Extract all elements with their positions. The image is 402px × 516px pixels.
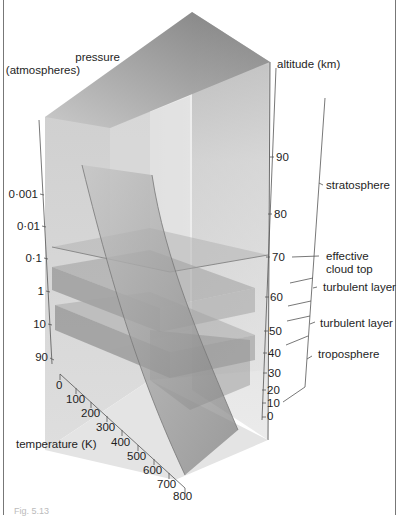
altitude-tick-label: 50 bbox=[269, 325, 282, 338]
layer-label-turbulent-upper: turbulent layer bbox=[323, 281, 396, 294]
figure-caption: Fig. 5.13 bbox=[14, 506, 49, 516]
altitude-tick-label: 70 bbox=[272, 251, 285, 264]
temperature-tick-label: 100 bbox=[66, 393, 85, 406]
pressure-tick-label: 0·1 bbox=[0, 252, 42, 265]
pressure-tick-label: 0·01 bbox=[0, 220, 40, 233]
pressure-tick-label: 0·001 bbox=[0, 188, 38, 201]
pressure-axis-units: (atmospheres) bbox=[0, 64, 80, 77]
pressure-tick-label: 90 bbox=[0, 351, 48, 364]
pressure-tick-label: 10 bbox=[0, 318, 46, 331]
temperature-tick-label: 200 bbox=[81, 407, 100, 420]
altitude-tick-label: 90 bbox=[276, 151, 289, 164]
temperature-tick-label: 0 bbox=[56, 379, 62, 392]
altitude-tick-label: 20 bbox=[267, 384, 280, 397]
altitude-tick-label: 40 bbox=[268, 347, 281, 360]
pressure-axis-title: pressure bbox=[40, 51, 120, 64]
altitude-tick-label: 80 bbox=[274, 208, 287, 221]
altitude-tick-label: 10 bbox=[267, 397, 280, 410]
layer-label-troposphere: troposphere bbox=[318, 348, 379, 361]
temperature-axis-title: temperature (K) bbox=[16, 438, 97, 451]
layer-label-cloud-top: effective bbox=[326, 250, 369, 263]
temperature-tick-label: 500 bbox=[127, 450, 146, 463]
temperature-tick-label: 400 bbox=[111, 436, 130, 449]
pressure-tick-label: 1 bbox=[0, 285, 44, 298]
layer-bracket-line bbox=[305, 98, 325, 387]
temperature-tick-label: 300 bbox=[96, 421, 115, 434]
altitude-tick-label: 30 bbox=[268, 367, 281, 380]
altitude-axis-title: altitude (km) bbox=[277, 58, 340, 71]
layer-label-stratosphere: stratosphere bbox=[326, 179, 390, 192]
altitude-tick-label: 60 bbox=[270, 291, 283, 304]
temperature-tick-label: 600 bbox=[143, 464, 162, 477]
layer-label-turbulent-lower: turbulent layer bbox=[320, 317, 393, 330]
temperature-tick-label: 800 bbox=[173, 490, 192, 503]
layer-label-cloud-top-2: cloud top bbox=[326, 263, 373, 276]
altitude-tick-label: 0 bbox=[267, 410, 273, 423]
